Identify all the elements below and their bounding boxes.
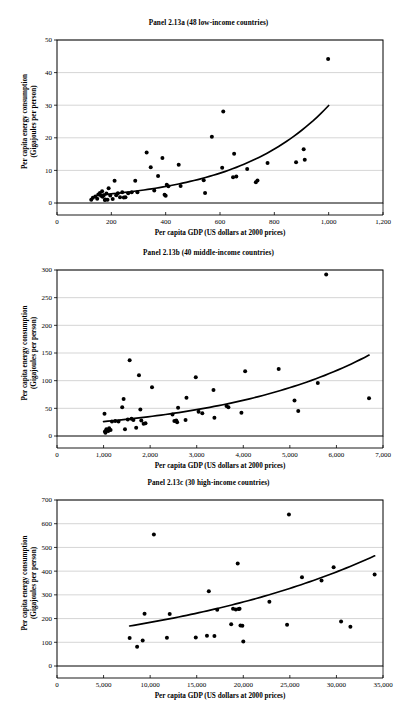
x-tick-label: 35,000 bbox=[373, 681, 393, 689]
data-point bbox=[303, 158, 307, 162]
data-point bbox=[128, 358, 132, 362]
data-point bbox=[243, 369, 247, 373]
data-point bbox=[95, 197, 99, 201]
panel-b-plot: 05010015020025030001,0002,0003,0004,0005… bbox=[0, 258, 417, 474]
data-point bbox=[116, 420, 120, 424]
data-point bbox=[211, 388, 215, 392]
data-point bbox=[220, 166, 224, 170]
data-point bbox=[234, 175, 238, 179]
data-point bbox=[128, 636, 132, 640]
data-point bbox=[123, 195, 127, 199]
data-point bbox=[241, 640, 245, 644]
data-point bbox=[116, 191, 120, 195]
data-point bbox=[133, 179, 137, 183]
data-point bbox=[177, 163, 181, 167]
data-point bbox=[108, 194, 112, 198]
data-point bbox=[175, 420, 179, 424]
data-point bbox=[111, 197, 115, 201]
data-point bbox=[367, 396, 371, 400]
data-point bbox=[100, 189, 104, 193]
data-point bbox=[324, 272, 328, 276]
x-tick-label: 800 bbox=[269, 218, 280, 226]
data-point bbox=[179, 184, 183, 188]
x-tick-label: 20,000 bbox=[234, 681, 254, 689]
data-point bbox=[150, 385, 154, 389]
data-point bbox=[130, 190, 134, 194]
data-point bbox=[287, 512, 291, 516]
data-point bbox=[226, 405, 230, 409]
data-point bbox=[245, 167, 249, 171]
y-tick-label: 50 bbox=[45, 36, 53, 44]
trend-line bbox=[98, 105, 329, 195]
data-point bbox=[194, 636, 198, 640]
data-point bbox=[285, 623, 289, 627]
data-point bbox=[202, 178, 206, 182]
data-point bbox=[348, 625, 352, 629]
x-tick-label: 7,000 bbox=[375, 451, 391, 459]
data-point bbox=[145, 150, 149, 154]
y-tick-label: 300 bbox=[42, 591, 53, 599]
y-tick-label: 50 bbox=[45, 405, 53, 413]
data-point bbox=[207, 589, 211, 593]
x-tick-label: 0 bbox=[55, 218, 59, 226]
data-point bbox=[103, 412, 107, 416]
data-point bbox=[194, 375, 198, 379]
data-point bbox=[205, 634, 209, 638]
data-point bbox=[316, 381, 320, 385]
x-tick-label: 5,000 bbox=[282, 451, 298, 459]
y-tick-label: 600 bbox=[42, 520, 53, 528]
y-tick-label: 0 bbox=[49, 199, 53, 207]
y-axis-title-line2: (Gigajoules per person) bbox=[30, 546, 38, 619]
y-tick-label: 40 bbox=[45, 69, 53, 77]
data-point bbox=[320, 578, 324, 582]
data-point bbox=[143, 421, 147, 425]
data-point bbox=[131, 418, 135, 422]
data-point bbox=[118, 195, 122, 199]
data-point bbox=[229, 622, 233, 626]
x-tick-label: 30,000 bbox=[327, 681, 347, 689]
data-point bbox=[120, 190, 124, 194]
data-point bbox=[232, 152, 236, 156]
data-point bbox=[212, 416, 216, 420]
data-point bbox=[126, 191, 130, 195]
y-tick-label: 400 bbox=[42, 568, 53, 576]
data-point bbox=[152, 532, 156, 536]
data-point bbox=[300, 575, 304, 579]
data-point bbox=[135, 190, 139, 194]
data-point bbox=[176, 406, 180, 410]
data-point bbox=[160, 156, 164, 160]
data-point bbox=[123, 427, 127, 431]
trend-line bbox=[104, 355, 369, 422]
panel-b-title: Panel 2.13b (40 middle-income countries) bbox=[0, 248, 417, 258]
panel-a-plot: 0102030405002004006008001,0001,200Per ca… bbox=[0, 28, 417, 240]
x-tick-label: 600 bbox=[215, 218, 226, 226]
data-point bbox=[137, 373, 141, 377]
y-tick-label: 500 bbox=[42, 544, 53, 552]
y-axis-title-line1: Per capita energy consumption bbox=[21, 74, 29, 169]
data-point bbox=[326, 57, 330, 61]
y-tick-label: 700 bbox=[42, 496, 53, 504]
x-tick-label: 6,000 bbox=[329, 451, 345, 459]
y-axis-title-line1: Per capita energy consumption bbox=[21, 535, 29, 630]
x-tick-label: 2,000 bbox=[142, 451, 158, 459]
y-tick-label: 20 bbox=[45, 134, 53, 142]
y-axis-title-line2: (Gigajoules per person) bbox=[30, 316, 38, 389]
data-point bbox=[277, 367, 281, 371]
data-point bbox=[168, 612, 172, 616]
data-point bbox=[104, 192, 108, 196]
data-point bbox=[113, 179, 117, 183]
y-tick-label: 30 bbox=[45, 102, 53, 110]
data-point bbox=[215, 608, 219, 612]
x-tick-label: 0 bbox=[55, 451, 59, 459]
y-tick-label: 0 bbox=[49, 432, 53, 440]
x-axis-title: Per capita GDP (US dollars at 2000 price… bbox=[155, 462, 286, 470]
data-point bbox=[138, 407, 142, 411]
x-tick-label: 400 bbox=[160, 218, 171, 226]
data-point bbox=[236, 562, 240, 566]
x-axis-title: Per capita GDP (US dollars at 2000 price… bbox=[155, 229, 286, 237]
x-tick-label: 4,000 bbox=[235, 451, 251, 459]
panel-a-title: Panel 2.13a (48 low-income countries) bbox=[0, 18, 417, 28]
y-tick-label: 0 bbox=[49, 662, 53, 670]
data-point bbox=[339, 619, 343, 623]
data-point bbox=[332, 565, 336, 569]
